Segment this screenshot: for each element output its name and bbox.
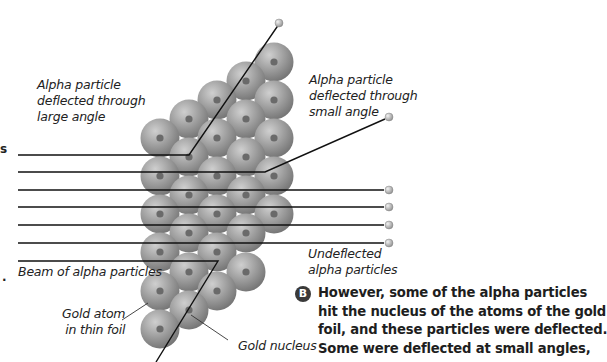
label-large-angle: Alpha particle deflected through large a…	[37, 77, 146, 125]
label-gold-atom: Gold atom in thin foil	[62, 306, 125, 338]
gold-nucleus	[185, 115, 192, 122]
gold-nucleus	[242, 229, 249, 236]
gold-nucleus	[213, 210, 220, 217]
step-badge: B	[295, 286, 311, 302]
gold-nucleus	[242, 191, 249, 198]
gold-nucleus	[156, 134, 163, 141]
label-undeflected: Undeflected alpha particles	[308, 246, 397, 278]
gold-nucleus	[270, 134, 277, 141]
gold-foil-atoms	[141, 43, 294, 349]
label-small-angle: Alpha particle deflected through small a…	[309, 72, 418, 120]
gold-nucleus	[213, 287, 220, 294]
gold-nucleus	[185, 229, 192, 236]
pointer-gold-atom	[122, 303, 148, 320]
gold-nucleus	[242, 268, 249, 275]
gold-nucleus	[213, 172, 220, 179]
alpha-particle-undeflected-3	[385, 221, 393, 229]
alpha-particle-undeflected-2	[385, 203, 393, 211]
gold-nucleus	[242, 115, 249, 122]
gold-nucleus	[185, 191, 192, 198]
gold-nucleus	[270, 58, 277, 65]
gold-nucleus	[213, 96, 220, 103]
gold-nucleus	[156, 248, 163, 255]
alpha-particle-undeflected-1	[385, 186, 393, 194]
gold-nucleus	[156, 210, 163, 217]
gold-nucleus	[185, 268, 192, 275]
gold-nucleus	[213, 248, 220, 255]
gold-nucleus	[156, 287, 163, 294]
gold-nucleus	[270, 96, 277, 103]
gold-nucleus	[213, 134, 220, 141]
alpha-particle-large-angle	[275, 19, 283, 27]
edge-mark-bottom: .	[2, 270, 7, 284]
gold-atom	[141, 310, 180, 349]
gold-nucleus	[156, 325, 163, 332]
label-gold-nucleus: Gold nucleus	[238, 338, 317, 354]
gold-nucleus	[156, 172, 163, 179]
gold-nucleus	[270, 210, 277, 217]
gold-nucleus	[242, 153, 249, 160]
edge-mark-top: s	[0, 142, 7, 156]
label-beam: Beam of alpha particles	[18, 264, 162, 280]
gold-nucleus	[270, 172, 277, 179]
caption-text: However, some of the alpha particles hit…	[318, 284, 607, 358]
gold-nucleus	[242, 77, 249, 84]
